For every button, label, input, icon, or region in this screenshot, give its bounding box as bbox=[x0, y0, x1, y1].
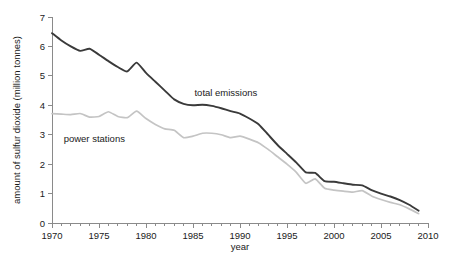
x-tick-label: 2010 bbox=[417, 230, 438, 241]
x-axis-title: year bbox=[231, 241, 249, 252]
x-tick-label: 1975 bbox=[88, 230, 109, 241]
x-tick-label: 1970 bbox=[41, 230, 62, 241]
x-tick-label: 1995 bbox=[276, 230, 297, 241]
series-label-total-emissions: total emissions bbox=[194, 87, 257, 98]
x-tick-label: 1980 bbox=[135, 230, 156, 241]
series-label-power-stations: power stations bbox=[64, 133, 126, 144]
x-tick-label: 2000 bbox=[323, 230, 344, 241]
sulfur-dioxide-line-chart: 01234567 1970197519801985199019952000200… bbox=[0, 0, 457, 272]
x-tick-label: 1990 bbox=[229, 230, 250, 241]
x-tick-label: 2005 bbox=[370, 230, 391, 241]
y-axis-title: amount of sulfur dioxide (million tonnes… bbox=[11, 36, 22, 204]
y-tick-label: 0 bbox=[40, 218, 45, 229]
chart-container: 01234567 1970197519801985199019952000200… bbox=[0, 0, 457, 272]
x-axis-tick-labels: 197019751980198519901995200020052010 bbox=[41, 230, 438, 241]
y-tick-label: 3 bbox=[40, 129, 45, 140]
y-tick-label: 2 bbox=[40, 159, 45, 170]
y-tick-label: 6 bbox=[40, 41, 45, 52]
y-tick-label: 7 bbox=[40, 12, 45, 23]
y-tick-label: 4 bbox=[40, 100, 45, 111]
x-tick-label: 1985 bbox=[182, 230, 203, 241]
y-tick-label: 1 bbox=[40, 188, 45, 199]
y-tick-label: 5 bbox=[40, 70, 45, 81]
